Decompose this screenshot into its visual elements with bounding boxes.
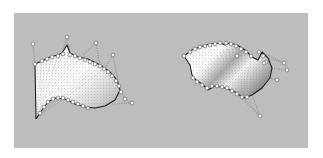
control-point[interactable] xyxy=(235,54,239,58)
control-point[interactable] xyxy=(88,60,92,64)
control-point[interactable] xyxy=(78,56,82,60)
control-point[interactable] xyxy=(261,54,265,58)
control-point[interactable] xyxy=(31,42,35,46)
control-point[interactable] xyxy=(114,79,118,83)
control-point[interactable] xyxy=(73,54,77,58)
control-point[interactable] xyxy=(240,95,244,99)
hull-line xyxy=(244,98,260,116)
control-point[interactable] xyxy=(56,54,60,58)
hull-line xyxy=(112,103,132,104)
control-point[interactable] xyxy=(258,114,262,118)
control-point[interactable] xyxy=(61,52,65,56)
control-point[interactable] xyxy=(208,43,212,47)
control-point[interactable] xyxy=(50,55,54,59)
control-point[interactable] xyxy=(220,85,224,89)
hull-line xyxy=(33,44,35,64)
control-point[interactable] xyxy=(257,50,261,54)
control-point[interactable] xyxy=(110,74,114,78)
control-point[interactable] xyxy=(244,50,248,54)
control-point[interactable] xyxy=(76,102,80,106)
control-point[interactable] xyxy=(275,78,279,82)
control-point[interactable] xyxy=(51,97,55,101)
modeling-viewport[interactable] xyxy=(14,13,308,148)
control-point[interactable] xyxy=(130,101,134,105)
control-point[interactable] xyxy=(93,62,97,66)
control-point[interactable] xyxy=(38,111,42,115)
control-point[interactable] xyxy=(203,44,207,48)
control-point[interactable] xyxy=(210,84,214,88)
control-point[interactable] xyxy=(182,54,186,58)
control-point[interactable] xyxy=(117,84,121,88)
control-point[interactable] xyxy=(205,86,209,90)
control-point[interactable] xyxy=(235,92,239,96)
control-point[interactable] xyxy=(239,47,243,51)
surfaces-layer xyxy=(31,35,289,119)
control-point[interactable] xyxy=(229,42,233,46)
control-point[interactable] xyxy=(198,45,202,49)
control-point[interactable] xyxy=(86,106,90,110)
control-point[interactable] xyxy=(249,54,253,58)
control-point[interactable] xyxy=(61,96,65,100)
control-point[interactable] xyxy=(40,59,44,63)
control-point[interactable] xyxy=(285,68,289,72)
control-point[interactable] xyxy=(245,95,249,99)
control-point[interactable] xyxy=(262,61,266,65)
control-point[interactable] xyxy=(188,50,192,54)
control-point[interactable] xyxy=(46,100,50,104)
control-point[interactable] xyxy=(98,64,102,68)
control-point[interactable] xyxy=(123,97,127,101)
control-point[interactable] xyxy=(200,83,204,87)
control-point[interactable] xyxy=(65,35,69,39)
control-point[interactable] xyxy=(45,57,49,61)
control-point[interactable] xyxy=(106,70,110,74)
control-point[interactable] xyxy=(213,42,217,46)
surface-scene[interactable] xyxy=(14,13,308,148)
left-surface[interactable] xyxy=(31,35,134,119)
control-point[interactable] xyxy=(68,53,72,57)
control-point[interactable] xyxy=(225,86,229,90)
hull-line xyxy=(252,95,260,116)
control-point[interactable] xyxy=(218,41,222,45)
control-point[interactable] xyxy=(102,67,106,71)
control-point[interactable] xyxy=(282,61,286,65)
control-point[interactable] xyxy=(230,89,234,93)
control-point[interactable] xyxy=(66,98,70,102)
right-surface[interactable] xyxy=(182,41,289,118)
control-point[interactable] xyxy=(42,105,46,109)
control-point[interactable] xyxy=(71,100,75,104)
control-point[interactable] xyxy=(111,53,115,57)
hull-line xyxy=(104,55,113,69)
control-point[interactable] xyxy=(215,84,219,88)
control-point[interactable] xyxy=(191,76,195,80)
hull-line xyxy=(272,68,287,70)
control-point[interactable] xyxy=(234,44,238,48)
control-point[interactable] xyxy=(193,47,197,51)
hull-line xyxy=(80,43,96,58)
control-point[interactable] xyxy=(94,41,98,45)
control-point[interactable] xyxy=(195,80,199,84)
control-point[interactable] xyxy=(33,62,37,66)
control-point[interactable] xyxy=(56,96,60,100)
control-point[interactable] xyxy=(119,90,123,94)
control-point[interactable] xyxy=(83,58,87,62)
control-point[interactable] xyxy=(224,41,228,45)
isocurve-pattern xyxy=(35,45,120,119)
control-point[interactable] xyxy=(81,104,85,108)
